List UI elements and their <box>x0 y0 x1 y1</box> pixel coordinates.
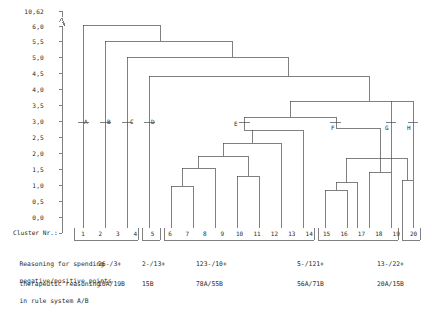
y-axis <box>59 11 65 233</box>
leaf-brackets <box>74 228 420 240</box>
merge-b <box>105 41 232 57</box>
merge-ef <box>244 117 336 128</box>
merge-c <box>127 57 288 76</box>
leaf-stems <box>83 25 413 228</box>
footer-row2-line2: in rule system A/B <box>19 297 88 305</box>
merge-a <box>83 25 160 41</box>
